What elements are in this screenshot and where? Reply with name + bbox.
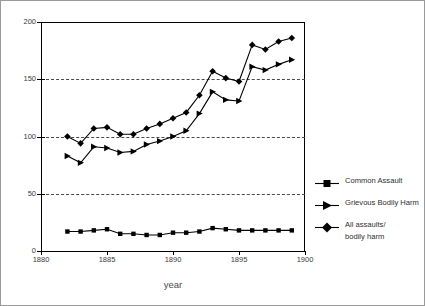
legend-item-common-assault[interactable]: Common Assault [314, 175, 424, 197]
data-point-marker [249, 63, 255, 69]
data-point-marker [210, 89, 216, 95]
data-point-marker [157, 138, 163, 144]
legend-label: Grievous Bodily Harm [345, 197, 419, 208]
data-point-marker [78, 229, 82, 233]
data-point-marker [117, 131, 124, 138]
data-point-marker [143, 125, 150, 132]
data-point-marker [92, 228, 96, 232]
data-point-marker [236, 78, 243, 85]
data-point-marker [170, 133, 176, 139]
diamond-marker-icon [314, 222, 340, 233]
data-point-marker [105, 227, 109, 231]
data-point-marker [104, 124, 111, 131]
legend-label: Common Assault [345, 175, 402, 186]
x-tick-label: 1900 [297, 256, 314, 264]
data-point-marker [290, 228, 294, 232]
legend-label-line2: bodily harm [345, 231, 384, 242]
data-point-marker [262, 46, 269, 53]
data-point-marker [170, 115, 177, 122]
data-point-marker [104, 145, 110, 151]
y-tick-label: 150 [23, 76, 36, 84]
data-point-marker [64, 133, 71, 140]
data-point-marker [118, 232, 122, 236]
data-point-marker [289, 57, 295, 63]
data-point-marker [289, 35, 296, 42]
y-tick-label: 50 [28, 190, 36, 198]
data-point-marker [223, 75, 230, 82]
data-point-marker [184, 230, 188, 234]
y-tick-label: 100 [23, 133, 36, 141]
data-point-marker [197, 229, 201, 233]
y-tick-label: 200 [23, 18, 36, 26]
series-svg [41, 22, 305, 252]
data-point-marker [263, 67, 269, 73]
data-point-marker [131, 148, 137, 154]
x-tick-label: 1885 [99, 256, 116, 264]
legend-label: All assaults/ [345, 219, 386, 230]
series-line [67, 38, 291, 143]
x-tick-label: 1880 [33, 256, 50, 264]
x-axis-title: year [41, 279, 305, 290]
data-point-marker [210, 226, 214, 230]
data-point-marker [224, 227, 228, 231]
data-point-marker [131, 232, 135, 236]
data-point-marker [209, 68, 216, 75]
data-point-marker [250, 228, 254, 232]
data-point-marker [263, 228, 267, 232]
data-point-marker [276, 61, 282, 67]
data-point-marker [223, 97, 229, 103]
data-point-marker [157, 121, 164, 128]
data-point-marker [130, 131, 137, 138]
data-point-marker [65, 153, 71, 159]
square-marker-icon [314, 178, 340, 189]
series-line [67, 228, 291, 235]
data-point-marker [91, 144, 97, 150]
legend-item-all-assaults[interactable]: All assaults/ bodily harm [314, 219, 424, 241]
data-point-marker [183, 128, 189, 134]
chart-legend: Common Assault Grievous Bodily Harm All … [314, 175, 424, 241]
data-point-marker [276, 228, 280, 232]
series-line [67, 60, 291, 163]
data-point-marker [144, 141, 150, 147]
x-tick-label: 1895 [231, 256, 248, 264]
triangle-right-marker-icon [314, 200, 340, 211]
x-tick-label: 1890 [165, 256, 182, 264]
data-point-marker [275, 38, 282, 45]
y-tick-label: 0 [32, 247, 36, 255]
plot-area: 050100150200 18801885189018951900 [41, 22, 305, 251]
data-point-marker [144, 233, 148, 237]
data-point-marker [171, 230, 175, 234]
data-point-marker [249, 42, 256, 49]
data-point-marker [197, 110, 203, 116]
data-point-marker [65, 229, 69, 233]
data-point-marker [117, 149, 123, 155]
legend-item-grievous-bodily-harm[interactable]: Grievous Bodily Harm [314, 197, 424, 219]
chart-figure: 050100150200 18801885189018951900 year C… [0, 0, 425, 306]
data-point-marker [237, 228, 241, 232]
data-point-marker [158, 233, 162, 237]
